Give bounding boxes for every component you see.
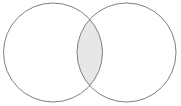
venn-diagram-canvas [0, 0, 181, 106]
venn-diagram-figure [0, 0, 181, 106]
